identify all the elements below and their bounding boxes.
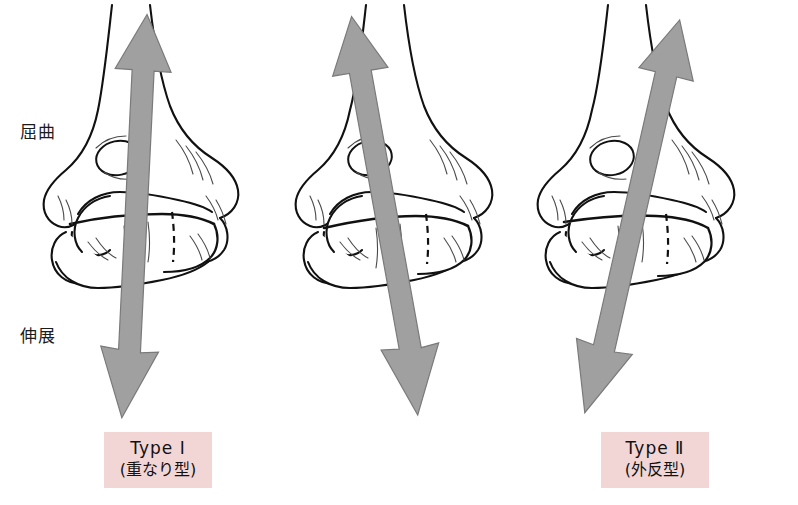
bone-illustration-type-2 [250,0,516,430]
caption-type-1: Type Ⅰ (重なり型) [104,432,212,488]
figure-root: 屈曲 伸展 [0,0,798,505]
bone-illustration-type-3 [498,0,764,430]
panel-type-1: Type Ⅰ (重なり型) [0,0,266,505]
bone-illustration-type-1 [0,0,266,430]
caption-sub-label-1: (重なり型) [116,459,200,480]
panel-type-2: Type Ⅱ (外反型) [250,0,516,505]
panel-type-3: Type Ⅲ (内反型) [498,0,764,505]
caption-type-label-1: Type Ⅰ [116,437,200,459]
